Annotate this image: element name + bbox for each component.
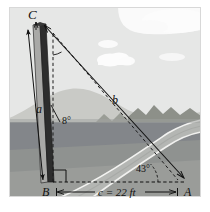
side-label-b: b xyxy=(112,93,118,107)
vertex-label-C: C xyxy=(28,7,37,22)
cloud-upper-2 xyxy=(132,20,168,34)
cloud-small-left xyxy=(98,40,118,48)
angle-label-8deg: 8° xyxy=(62,115,71,126)
side-label-a: a xyxy=(36,102,42,116)
figure-root: C a b 8° 43° B A c = 22 ft xyxy=(0,0,210,212)
side-label-c: c = 22 ft xyxy=(98,186,137,198)
vertex-label-A: A xyxy=(183,185,192,199)
trigonometry-figure: C a b 8° 43° B A c = 22 ft xyxy=(0,0,210,212)
angle-label-43deg: 43° xyxy=(136,163,150,174)
vertex-label-B: B xyxy=(42,185,50,199)
cloud-right xyxy=(159,53,185,61)
